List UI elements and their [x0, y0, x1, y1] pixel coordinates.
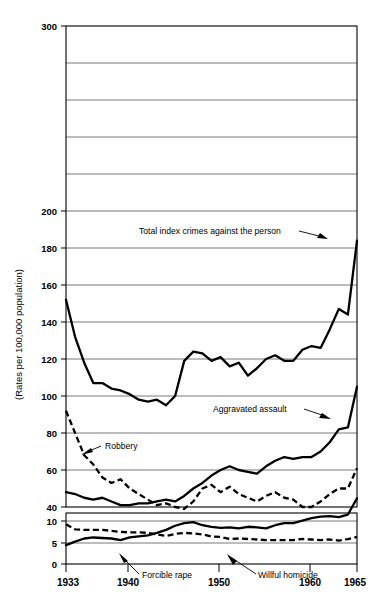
annotation-aggravated-assault: Aggravated assault: [213, 404, 331, 419]
arrowhead-forcible-rape: [119, 553, 128, 563]
upper-y-ticks: [61, 26, 66, 507]
annotation-willful-homicide-label: Willful homicide: [258, 570, 318, 580]
y-label-10: 10: [46, 516, 57, 527]
annotation-robbery: Robbery: [81, 441, 138, 455]
y-label-160: 160: [41, 280, 57, 291]
x-label-1933: 1933: [57, 577, 80, 588]
annotation-forcible-rape: Forcible rape: [119, 553, 192, 580]
upper-panel-frame: [66, 26, 357, 507]
upper-panel: 300 200 180 160 140 120 100 80 60 40: [41, 21, 357, 513]
y-label-0: 0: [52, 559, 57, 570]
y-axis-title: (Rates per 100,000 population): [13, 269, 24, 400]
x-label-1965: 1965: [344, 577, 367, 588]
series-robbery: [66, 411, 357, 509]
y-label-80: 80: [46, 428, 57, 439]
y-label-120: 120: [41, 354, 57, 365]
annotation-willful-homicide: Willful homicide: [227, 554, 318, 580]
lower-panel: 10 5 0: [46, 498, 357, 570]
y-label-100: 100: [41, 391, 57, 402]
x-label-1940: 1940: [117, 577, 140, 588]
y-label-180: 180: [41, 243, 57, 254]
y-label-40: 40: [46, 502, 57, 513]
annotation-forcible-rape-label: Forcible rape: [142, 570, 192, 580]
arrowhead-willful-homicide: [227, 554, 237, 565]
y-label-140: 140: [41, 317, 57, 328]
annotation-aggravated-assault-label: Aggravated assault: [213, 404, 287, 414]
x-label-1950: 1950: [208, 577, 231, 588]
annotation-robbery-label: Robbery: [105, 441, 138, 451]
upper-gridlines: [66, 63, 357, 470]
crime-rates-chart: 300 200 180 160 140 120 100 80 60 40 10 …: [0, 0, 384, 616]
annotation-total-index-crimes-label: Total index crimes against the person: [139, 226, 281, 236]
arrowhead-total-index: [317, 233, 328, 239]
x-axis: 1933 1940 1950 1960 1965: [57, 564, 367, 588]
y-label-200: 200: [41, 206, 57, 217]
series-total-index-crimes: [66, 241, 357, 406]
y-label-60: 60: [46, 465, 57, 476]
annotation-total-index-crimes: Total index crimes against the person: [139, 226, 328, 239]
lower-y-ticks: [61, 521, 66, 564]
chart-figure: 300 200 180 160 140 120 100 80 60 40 10 …: [0, 0, 384, 616]
y-label-300: 300: [41, 21, 57, 32]
arrowhead-aggravated-assault: [319, 413, 331, 419]
y-label-5: 5: [52, 538, 58, 549]
